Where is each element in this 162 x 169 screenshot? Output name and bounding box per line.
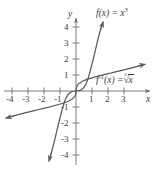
y-tick-label: -3 <box>61 135 69 144</box>
x-axis-label: x <box>146 95 150 105</box>
graph-canvas <box>0 0 162 169</box>
x-tick-label: -4 <box>6 95 14 104</box>
radicand: x <box>128 74 134 85</box>
x-tick-label: -2 <box>38 95 46 104</box>
cubic-exponent: 3 <box>125 6 128 13</box>
cubic-function-expression: f(x) = x <box>96 8 125 18</box>
y-tick-label: -2 <box>61 119 69 128</box>
y-tick-label: 3 <box>64 39 69 48</box>
y-tick-label: 2 <box>64 55 69 64</box>
inverse-function-arg: (x) = <box>104 75 123 85</box>
x-tick-label: -3 <box>22 95 30 104</box>
y-axis-label: y <box>68 10 72 20</box>
y-tick-label: 1 <box>64 71 69 80</box>
inverse-function-label: f-1(x) =3√x <box>96 74 134 86</box>
y-tick-label: 4 <box>64 23 69 32</box>
y-tick-label: -1 <box>61 103 69 112</box>
function-inverse-graph-figure: y x -4 -3 -2 -1 1 2 3 4 3 2 1 -1 -2 -3 -… <box>0 0 162 169</box>
cubic-curve-arrow-down <box>49 153 51 162</box>
cubic-function-label: f(x) = x3 <box>96 7 128 19</box>
x-tick-label: 3 <box>121 95 126 104</box>
y-tick-label: -4 <box>61 151 69 160</box>
x-tick-label: 2 <box>105 95 110 104</box>
x-tick-label: 1 <box>89 95 94 104</box>
radical-index: 3 <box>124 72 127 77</box>
cube-root-radical: 3√x <box>123 75 133 86</box>
